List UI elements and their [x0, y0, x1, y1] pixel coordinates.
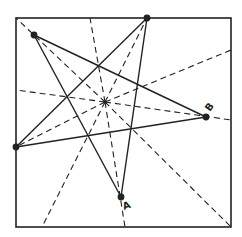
vertex-point-p1 — [31, 32, 38, 39]
center-point — [103, 100, 106, 103]
vertex-points — [13, 15, 210, 201]
label-a: A — [121, 199, 132, 212]
dashed-ray — [16, 18, 105, 102]
vertex-point-p2 — [144, 15, 151, 22]
vertex-point-p4 — [13, 144, 20, 151]
pentagram-diagram: A B — [0, 0, 242, 237]
vertex-point-b — [203, 114, 210, 121]
diagram-canvas: A B — [0, 0, 242, 237]
vertex-point-a — [118, 194, 125, 201]
dashed-ray — [105, 50, 231, 102]
dashed-ray — [105, 102, 125, 227]
dashed-ray — [42, 102, 105, 227]
dashed-ray — [90, 18, 105, 102]
label-b: B — [203, 101, 216, 114]
dashed-ray — [16, 90, 105, 102]
